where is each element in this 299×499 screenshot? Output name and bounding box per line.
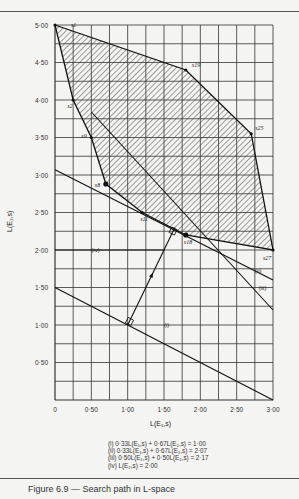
vertex-point: [72, 98, 75, 101]
x-tick-label: 3·00: [266, 406, 279, 413]
search-arrow: [125, 227, 177, 325]
y-tick-label: 4·00: [35, 97, 48, 104]
legend-item: (i) 0·33L(E₁,s) + 0·67L(E₂,s) = 1·00: [108, 440, 208, 447]
y-tick-label: 1·00: [35, 322, 48, 329]
vertex-point: [90, 136, 93, 139]
line-label: (iv): [91, 247, 99, 253]
vertex-label: s8: [95, 182, 100, 188]
x-axis-label: L(E₁,s): [150, 420, 171, 427]
y-tick-label: 2·00: [35, 247, 48, 254]
y-tick-label: 3·50: [35, 134, 48, 141]
y-axis-label: L(E₂,s): [6, 211, 13, 232]
y-tick-label: 0·50: [35, 359, 48, 366]
legend-item: (iii) 0·50L(E₁,s) + 0·50L(E₂,s) = 2·17: [108, 454, 208, 461]
legend-item: (ii) 0·33L(E₁,s) + 0·67L(E₂,s) = 2·07: [108, 447, 208, 454]
x-tick-label: 0: [53, 406, 57, 413]
legend: (i) 0·33L(E₁,s) + 0·67L(E₂,s) = 1·00 (ii…: [108, 440, 208, 469]
bottom-rule: [0, 478, 299, 479]
x-tick-label: 1·00: [121, 406, 134, 413]
y-tick-label: 3·00: [35, 172, 48, 179]
y-tick-label: 1·50: [35, 284, 48, 291]
x-tick-label: 2·00: [194, 406, 207, 413]
vertex-label: s1: [71, 22, 76, 28]
figure-caption: Figure 6.9 — Search path in L-space: [28, 484, 175, 494]
x-tick-label: 2·50: [230, 406, 243, 413]
x-tick-label: 1·50: [157, 406, 170, 413]
y-tick-label: 2·50: [35, 209, 48, 216]
vertex-point: [250, 132, 253, 135]
vertex-label: s19: [192, 62, 200, 68]
vertex-label: s9: [81, 133, 86, 139]
vertex-point: [271, 248, 274, 251]
vertex-point: [141, 211, 144, 214]
y-tick-label: 5·00: [35, 22, 48, 29]
vertex-label: s2: [67, 103, 72, 109]
vertex-label: s25: [255, 125, 263, 131]
legend-item: (iv) L(E₂,s) = 2·00: [108, 462, 208, 469]
vertex-point: [184, 68, 187, 71]
vertex-point: [53, 23, 56, 26]
vertex-point: [183, 232, 188, 237]
y-tick-label: 4·50: [35, 59, 48, 66]
line-label: (iii): [258, 285, 266, 291]
line-label: (i): [164, 322, 169, 328]
vertex-label: s27: [263, 255, 272, 261]
vertex-point: [103, 181, 108, 186]
x-tick-label: 0·50: [85, 406, 98, 413]
vertex-label: s18: [184, 239, 192, 245]
line-label: (ii): [255, 268, 262, 274]
vertex-label: s11: [140, 216, 148, 222]
